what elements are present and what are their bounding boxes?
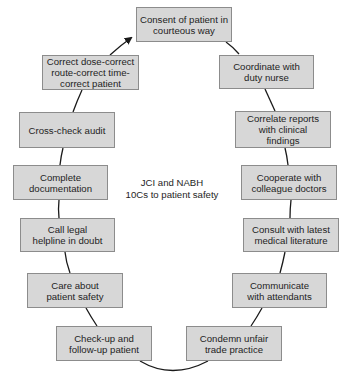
- node-text-line: Complete: [29, 172, 92, 183]
- node-text-line: Coordinate with: [233, 61, 300, 72]
- node-text-line: helpline in doubt: [33, 235, 103, 246]
- node-text-line: Condemn unfair: [200, 333, 268, 344]
- node-text-line: Cooperate with: [251, 172, 326, 183]
- node-text-line: correct patient: [47, 78, 134, 89]
- node-text-line: colleague doctors: [251, 183, 326, 194]
- node-text-line: Care about: [46, 280, 103, 291]
- node-communicate-with-attendants: Communicate with attendants: [232, 273, 327, 308]
- diagram-center-title: JCI and NABH 10Cs to patient safety: [122, 177, 222, 201]
- node-text-line: findings: [247, 135, 319, 146]
- node-text-line: with clinical: [247, 124, 319, 135]
- node-complete-documentation: Complete documentation: [13, 165, 108, 200]
- node-correlate-reports: Correlate reports with clinical findings: [235, 111, 331, 148]
- node-coordinate-with-duty-nurse: Coordinate with duty nurse: [219, 55, 314, 89]
- node-text-line: duty nurse: [233, 72, 300, 83]
- center-title-line: 10Cs to patient safety: [122, 189, 222, 201]
- node-text-line: Correlate reports: [247, 113, 319, 124]
- node-text-line: medical literature: [252, 235, 330, 246]
- node-text-line: patient safety: [46, 291, 103, 302]
- node-cross-check-audit: Cross-check audit: [19, 112, 115, 148]
- node-consent-of-patient: Consent of patient in courteous way: [136, 7, 232, 42]
- node-text-line: Check-up and: [69, 333, 139, 344]
- node-text-line: documentation: [29, 183, 92, 194]
- node-text-line: Communicate: [247, 280, 312, 291]
- patient-safety-cycle-diagram: Consent of patient in courteous way Coor…: [0, 0, 345, 378]
- node-text-line: Call legal: [33, 224, 103, 235]
- node-text-line: follow-up patient: [69, 344, 139, 355]
- node-text-line: trade practice: [200, 344, 268, 355]
- center-title-line: JCI and NABH: [122, 177, 222, 189]
- node-cooperate-with-colleagues: Cooperate with colleague doctors: [241, 165, 337, 200]
- node-text-line: courteous way: [140, 25, 228, 36]
- node-text-line: Cross-check audit: [29, 125, 106, 136]
- node-condemn-unfair-trade: Condemn unfair trade practice: [186, 326, 282, 361]
- node-call-legal-helpline: Call legal helpline in doubt: [20, 218, 115, 252]
- node-correct-dose-route-time-patient: Correct dose-correct route-correct time-…: [42, 55, 139, 90]
- node-text-line: Consent of patient in: [140, 14, 228, 25]
- node-text-line: with attendants: [247, 291, 312, 302]
- node-text-line: Correct dose-correct: [47, 56, 134, 67]
- node-text-line: route-correct time-: [47, 67, 134, 78]
- node-check-up-follow-up: Check-up and follow-up patient: [56, 326, 152, 361]
- node-text-line: Consult with latest: [252, 224, 330, 235]
- node-care-about-patient-safety: Care about patient safety: [27, 273, 123, 308]
- node-consult-medical-literature: Consult with latest medical literature: [243, 218, 339, 252]
